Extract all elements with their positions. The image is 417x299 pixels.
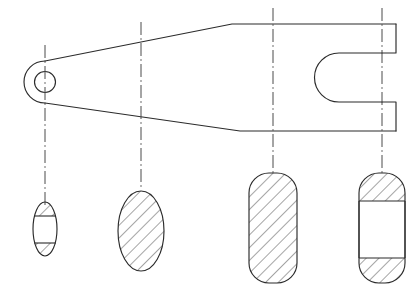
section-D-fork [355,169,411,289]
fork-upper-prong [382,24,396,53]
section-A-boss [25,195,67,265]
fork-lower-prong [382,102,396,131]
section-A-hatch [25,195,67,265]
arm-bottom-edge [45,103,396,131]
fork-slot-u-cut [315,53,383,102]
section-D-hatch [355,169,411,289]
section-A-bore-band [25,216,67,243]
main-view-lever [24,24,396,131]
technical-drawing-canvas [0,0,417,299]
section-C-hatch [245,169,303,289]
section-D-slot-band [355,201,411,258]
arm-top-edge [45,24,396,61]
engineering-drawing-svg [0,0,417,299]
centerline-group [45,8,382,205]
section-C-solid-block [245,169,303,289]
section-B-arm [113,186,169,278]
section-B-hatch [113,186,169,278]
